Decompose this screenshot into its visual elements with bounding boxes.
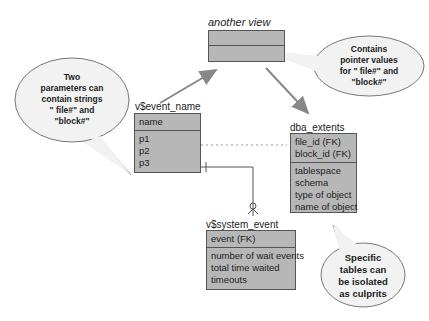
key-block-id: block_id (FK) bbox=[295, 148, 352, 160]
key-name: name bbox=[139, 116, 196, 128]
attr-schema: schema bbox=[295, 177, 352, 189]
system-event-title: v$system_event bbox=[206, 219, 278, 230]
attr-p1: p1 bbox=[139, 133, 196, 145]
callout-top-right-text: Containspointer valuesfor " file#" and"b… bbox=[324, 44, 414, 88]
attr-p2: p2 bbox=[139, 145, 196, 157]
callout-bottom-right-text: Specifictables canbe isolatedas culprits bbox=[330, 252, 396, 300]
keys-section: event (FK) bbox=[207, 231, 295, 248]
another-view-entity[interactable] bbox=[208, 30, 285, 62]
attributes-section: p1 p2 p3 bbox=[135, 131, 200, 171]
attr-timeouts: timeouts bbox=[211, 274, 291, 286]
attr-number-of-wait-events: number of wait events bbox=[211, 250, 291, 262]
key-file-id: file_id (FK) bbox=[295, 136, 352, 148]
callout-left-text: Twoparameters cancontain strings" file#"… bbox=[22, 72, 122, 127]
event-name-title: v$event_name bbox=[135, 101, 201, 112]
dba-extents-entity[interactable]: file_id (FK) block_id (FK) tablespace sc… bbox=[290, 133, 357, 213]
arrow-event-name-to-view bbox=[160, 70, 216, 103]
attr-name-of-object: name of object bbox=[295, 201, 352, 213]
arrow-view-to-extents bbox=[266, 68, 308, 113]
attr-type-of-object: type of object bbox=[295, 189, 352, 201]
dba-extents-title: dba_extents bbox=[290, 122, 345, 133]
attr-tablespace: tablespace bbox=[295, 165, 352, 177]
relationship-line bbox=[201, 167, 253, 210]
attributes-section: number of wait events total time waited … bbox=[207, 248, 295, 288]
system-event-entity[interactable]: event (FK) number of wait events total t… bbox=[206, 230, 296, 290]
another-view-title: another view bbox=[208, 16, 270, 28]
attr-p3: p3 bbox=[139, 157, 196, 169]
keys-section: name bbox=[135, 114, 200, 131]
attributes-section: tablespace schema type of object name of… bbox=[291, 163, 356, 215]
keys-section: file_id (FK) block_id (FK) bbox=[291, 134, 356, 163]
key-event: event (FK) bbox=[211, 233, 291, 245]
attr-total-time-waited: total time waited bbox=[211, 262, 291, 274]
event-name-entity[interactable]: name p1 p2 p3 bbox=[134, 113, 201, 173]
